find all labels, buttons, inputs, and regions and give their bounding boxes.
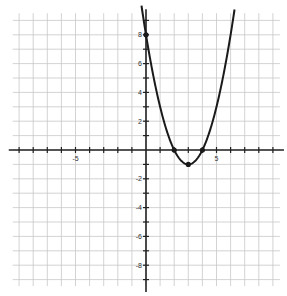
y-tick-label: -8 (136, 262, 142, 269)
y-tick-label: -6 (136, 233, 142, 240)
x-tick-label: -5 (72, 155, 78, 162)
marked-point (200, 147, 205, 152)
y-tick-label: 2 (138, 118, 142, 125)
y-tick-label: -2 (136, 175, 142, 182)
axes (9, 9, 284, 292)
y-tick-label: 8 (138, 31, 142, 38)
marked-point (186, 162, 191, 167)
y-tick-label: 6 (138, 60, 142, 67)
marked-point (172, 147, 177, 152)
x-tick-label: 5 (215, 155, 219, 162)
parabola-graph: -558642-2-4-6-8 (0, 0, 287, 296)
y-tick-label: 4 (138, 89, 142, 96)
y-tick-label: -4 (136, 204, 142, 211)
marked-point (143, 32, 148, 37)
